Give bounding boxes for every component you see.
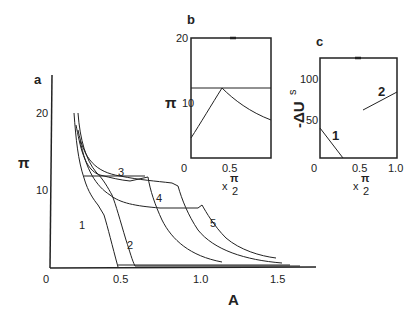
figure: a 20 10 π 0 0.5 1.0 1.5 A 1 2 3 4 5: [0, 0, 419, 316]
panel-c-ytick-100: 100: [300, 73, 318, 85]
panel-a-xtick-1.0: 1.0: [193, 273, 208, 285]
panel-c-xtick-1.0: 1.0: [388, 162, 403, 174]
panel-a-curve-label-4: 4: [156, 192, 162, 204]
panel-b-ylabel: π: [165, 94, 177, 111]
panel-a-label: a: [34, 72, 42, 87]
panel-a-ylabel: π: [18, 154, 30, 171]
panel-c-ylabel: -ΔU s: [286, 89, 307, 128]
panel-a-ytick-20: 20: [36, 107, 48, 119]
panel-a-curve-label-5: 5: [210, 217, 216, 229]
panel-b-curve: [191, 88, 271, 138]
panel-c-label: c: [316, 34, 323, 49]
panel-c-xlabel-sub: 2: [363, 185, 369, 197]
panel-b-xlabel-sup: π: [230, 172, 239, 184]
panel-b-label: b: [187, 12, 195, 27]
panel-a-curve-3: [76, 125, 222, 262]
panel-b: b 20 10 π 0 0.5 x π 2: [165, 12, 271, 197]
panel-b-xlabel-x: x: [222, 180, 228, 192]
panel-a-curve-label-1: 1: [79, 219, 85, 231]
panel-c-ylabel-sup: s: [286, 89, 298, 95]
panel-a-xtick-1.5: 1.5: [270, 273, 285, 285]
panel-c-line-label-1: 1: [332, 128, 339, 143]
panel-a-curve-label-2: 2: [127, 239, 133, 251]
panel-c: c 100 50 0 0.5 1.0 -ΔU s x π 2 1 2: [286, 34, 403, 197]
panel-c-line-label-2: 2: [378, 84, 385, 99]
panel-b-xtick-0: 0: [181, 162, 187, 174]
panel-b-frame: [191, 38, 271, 158]
panel-c-xtick-0: 0: [311, 162, 317, 174]
panel-a-x-axis: [50, 267, 316, 268]
panel-c-ytick-50: 50: [306, 114, 318, 126]
panel-b-ytick-10: 10: [182, 97, 194, 109]
panel-c-xlabel-sup: π: [361, 172, 370, 184]
panel-a-y-axis: [50, 75, 52, 268]
panel-c-xlabel-x: x: [353, 180, 359, 192]
panel-a-ytick-10: 10: [36, 184, 48, 196]
panel-a-curve-label-3: 3: [118, 166, 124, 178]
panel-c-ylabel-text: -ΔU: [290, 101, 307, 128]
panel-b-xlabel-sub: 2: [232, 185, 238, 197]
panel-a-xlabel: A: [228, 291, 239, 308]
panel-a-xtick-0.5: 0.5: [113, 273, 128, 285]
panel-b-ytick-20: 20: [176, 32, 188, 44]
panel-a-xtick-0: 0: [43, 273, 49, 285]
